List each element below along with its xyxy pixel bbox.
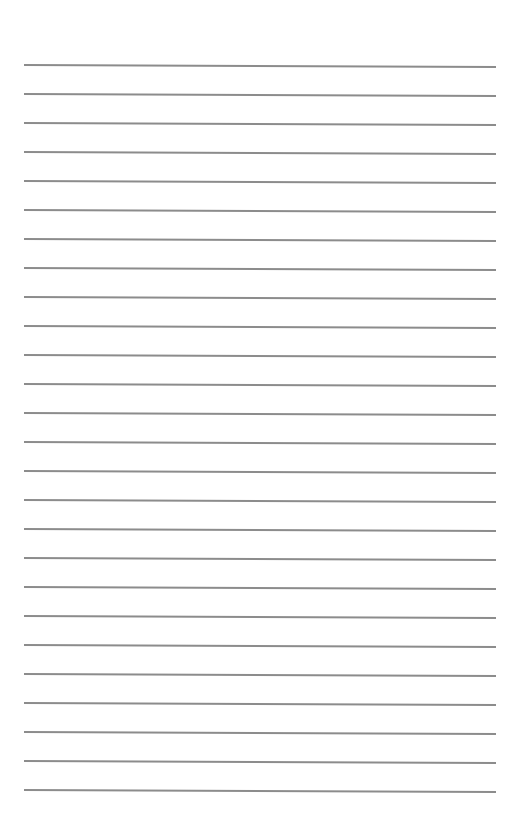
ruled-line bbox=[24, 644, 496, 648]
ruled-line bbox=[24, 238, 496, 242]
ruled-line bbox=[24, 760, 496, 764]
ruled-line bbox=[24, 209, 496, 213]
ruled-line bbox=[24, 180, 496, 184]
ruled-line bbox=[24, 296, 496, 300]
ruled-line bbox=[24, 441, 496, 445]
ruled-line bbox=[24, 557, 496, 561]
ruled-line bbox=[24, 354, 496, 358]
ruled-line bbox=[24, 731, 496, 735]
ruled-line bbox=[24, 789, 496, 793]
ruled-line bbox=[24, 615, 496, 619]
lined-paper-page bbox=[0, 0, 514, 833]
ruled-line bbox=[24, 702, 496, 706]
ruled-line bbox=[24, 412, 496, 416]
ruled-line bbox=[24, 64, 496, 68]
ruled-line bbox=[24, 151, 496, 155]
ruled-line bbox=[24, 325, 496, 329]
ruled-line bbox=[24, 122, 496, 126]
ruled-line bbox=[24, 528, 496, 532]
ruled-line bbox=[24, 673, 496, 677]
ruled-line bbox=[24, 93, 496, 97]
ruled-line bbox=[24, 586, 496, 590]
ruled-line bbox=[24, 499, 496, 503]
ruled-line bbox=[24, 267, 496, 271]
ruled-line bbox=[24, 383, 496, 387]
ruled-line bbox=[24, 470, 496, 474]
